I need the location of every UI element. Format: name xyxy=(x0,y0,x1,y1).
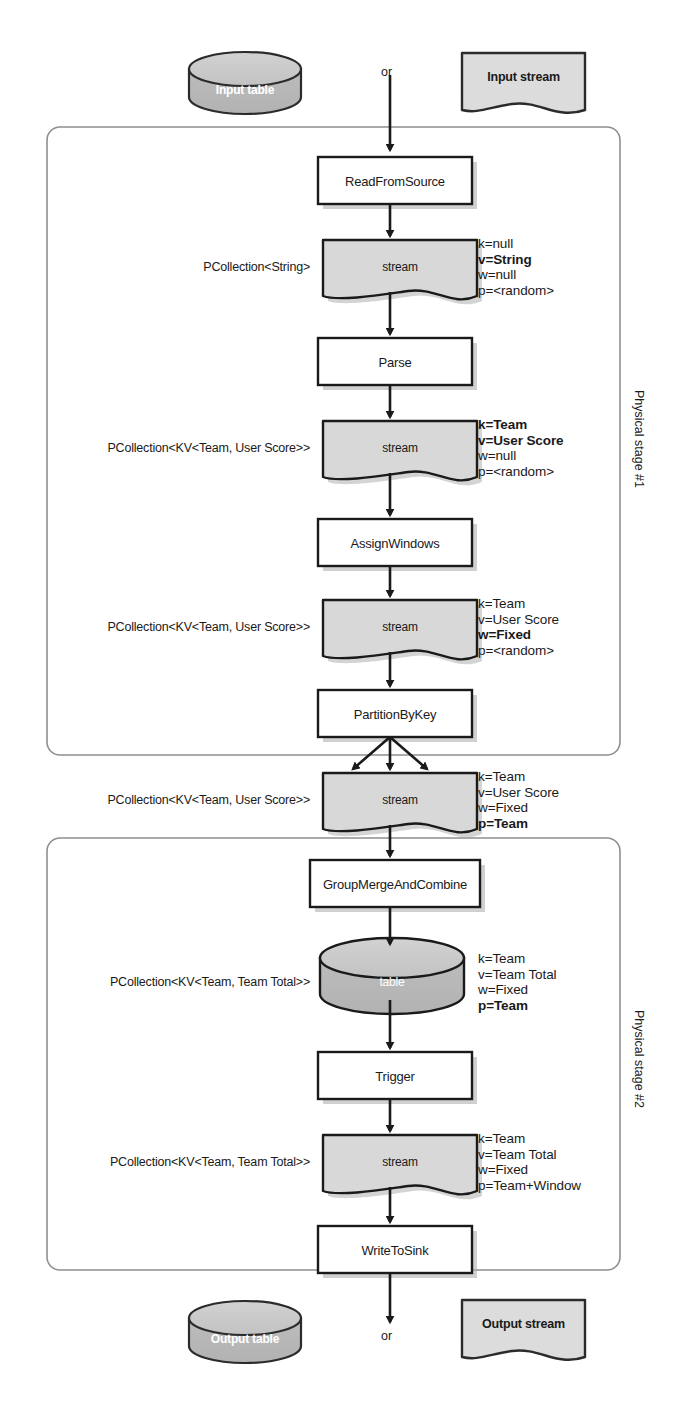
pcollection-attributes-2: k=Team v=User Score w=null p=<random> xyxy=(478,417,563,479)
arrow-partition-fanout xyxy=(353,737,427,769)
pcollection-type-3: PCollection<KV<Team, User Score>> xyxy=(36,621,310,634)
pcollection-shape-caption-5: table xyxy=(320,975,464,989)
attr-v: v=Team Total xyxy=(478,967,556,983)
pcollection-type-1: PCollection<String> xyxy=(60,261,310,274)
attr-p: p=Team xyxy=(478,816,559,832)
transform-label-readfromsource: ReadFromSource xyxy=(318,174,472,189)
attr-p: p=Team+Window xyxy=(478,1178,581,1194)
stage-label-2: Physical stage #2 xyxy=(633,1010,646,1108)
pcollection-shape-caption-4: stream xyxy=(323,793,477,807)
transform-label-partitionbykey: PartitionByKey xyxy=(318,707,472,722)
or-label-top: or xyxy=(381,66,392,79)
attr-v: v=User Score xyxy=(478,433,563,449)
transform-label-writetosink: WriteToSink xyxy=(318,1243,472,1258)
transform-label-groupmergeandcombine: GroupMergeAndCombine xyxy=(310,877,480,892)
attr-w: w=null xyxy=(478,448,563,464)
pcollection-type-4: PCollection<KV<Team, User Score>> xyxy=(36,794,310,807)
attr-p: p=<random> xyxy=(478,464,563,480)
pcollection-shape-caption-3: stream xyxy=(323,620,477,634)
pcollection-shape-caption-2: stream xyxy=(323,441,477,455)
stage-label-1: Physical stage #1 xyxy=(633,390,646,488)
input-stream-label: Input stream xyxy=(462,70,585,84)
transform-label-parse: Parse xyxy=(318,355,472,370)
attr-k: k=Team xyxy=(478,417,563,433)
pcollection-attributes-5: k=Team v=Team Total w=Fixed p=Team xyxy=(478,951,556,1013)
attr-p: p=<random> xyxy=(478,283,554,299)
attr-v: v=Team Total xyxy=(478,1147,581,1163)
pcollection-attributes-3: k=Team v=User Score w=Fixed p=<random> xyxy=(478,596,559,658)
pcollection-type-5: PCollection<KV<Team, Team Total>> xyxy=(36,976,310,989)
pcollection-shape-caption-1: stream xyxy=(323,260,477,274)
pcollection-shape-caption-6: stream xyxy=(323,1155,477,1169)
attr-k: k=null xyxy=(478,236,554,252)
transform-label-assignwindows: AssignWindows xyxy=(318,536,472,551)
output-table-label: Output table xyxy=(189,1332,301,1346)
attr-w: w=Fixed xyxy=(478,627,559,643)
transform-label-trigger: Trigger xyxy=(318,1069,472,1084)
pcollection-attributes-6: k=Team v=Team Total w=Fixed p=Team+Windo… xyxy=(478,1131,581,1193)
attr-v: v=User Score xyxy=(478,785,559,801)
input-table-label: Input table xyxy=(189,83,301,97)
attr-w: w=null xyxy=(478,267,554,283)
pcollection-type-2: PCollection<KV<Team, User Score>> xyxy=(36,442,310,455)
attr-w: w=Fixed xyxy=(478,800,559,816)
attr-k: k=Team xyxy=(478,951,556,967)
attr-k: k=Team xyxy=(478,1131,581,1147)
attr-w: w=Fixed xyxy=(478,982,556,998)
attr-k: k=Team xyxy=(478,769,559,785)
attr-v: v=String xyxy=(478,252,554,268)
pcollection-type-6: PCollection<KV<Team, Team Total>> xyxy=(36,1156,310,1169)
or-label-bottom: or xyxy=(381,1330,392,1343)
pcollection-attributes-4: k=Team v=User Score w=Fixed p=Team xyxy=(478,769,559,831)
attr-w: w=Fixed xyxy=(478,1162,581,1178)
attr-p: p=Team xyxy=(478,998,556,1014)
attr-k: k=Team xyxy=(478,596,559,612)
diagram-canvas: Input table Input stream or Output table… xyxy=(0,0,687,1419)
attr-p: p=<random> xyxy=(478,643,559,659)
output-stream-label: Output stream xyxy=(462,1317,585,1331)
stage-frame-2 xyxy=(47,838,620,1270)
attr-v: v=User Score xyxy=(478,612,559,628)
pcollection-attributes-1: k=null v=String w=null p=<random> xyxy=(478,236,554,298)
